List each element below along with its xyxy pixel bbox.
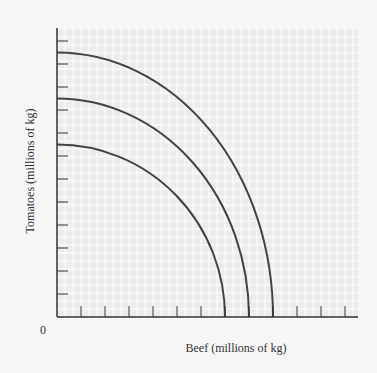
x-axis-label: Beef (millions of kg) xyxy=(186,341,287,356)
origin-label: 0 xyxy=(40,323,46,338)
y-axis-label: Tomatoes (millions of kg) xyxy=(23,109,38,234)
ppf-chart xyxy=(0,0,377,373)
